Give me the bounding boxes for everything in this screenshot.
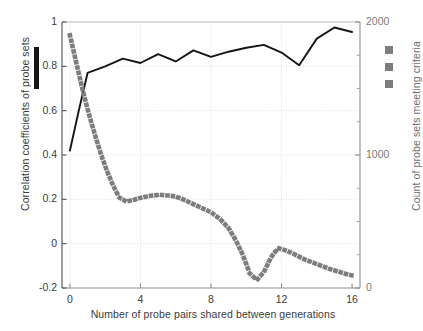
gridlines	[62, 22, 360, 288]
y-tick-label-right-2: 2000	[366, 15, 389, 27]
legend-swatch-count-2	[385, 63, 393, 71]
y-axis-label-right: Count of probe sets meeting criteria	[410, 26, 422, 226]
x-tick-label-4: 16	[343, 293, 361, 305]
x-tick-label-2: 8	[202, 293, 220, 305]
y-tick-label-left-3: 0.4	[42, 148, 57, 160]
y-tick-label-left-0: -0.2	[39, 281, 57, 293]
legend-swatch-count-1	[385, 46, 393, 54]
y-tick-label-right-1: 1000	[366, 148, 389, 160]
y-axis-label-left: Correlation coefficients of probe sets	[19, 24, 31, 224]
legend-swatch-count-3	[385, 80, 393, 88]
legend-swatch-correlation	[34, 47, 39, 89]
y-tick-label-left-6: 1	[51, 15, 57, 27]
x-tick-label-3: 12	[273, 293, 291, 305]
x-axis-label: Number of probe pairs shared between gen…	[48, 308, 378, 320]
y-tick-label-left-5: 0.8	[42, 59, 57, 71]
chart-figure	[0, 0, 423, 331]
y-tick-label-left-4: 0.6	[42, 104, 57, 116]
y-tick-label-right-0: 0	[366, 281, 372, 293]
y-tick-label-left-2: 0.2	[42, 192, 57, 204]
x-tick-label-1: 4	[131, 293, 149, 305]
x-tick-label-0: 0	[61, 293, 79, 305]
y-tick-label-left-1: 0	[51, 237, 57, 249]
